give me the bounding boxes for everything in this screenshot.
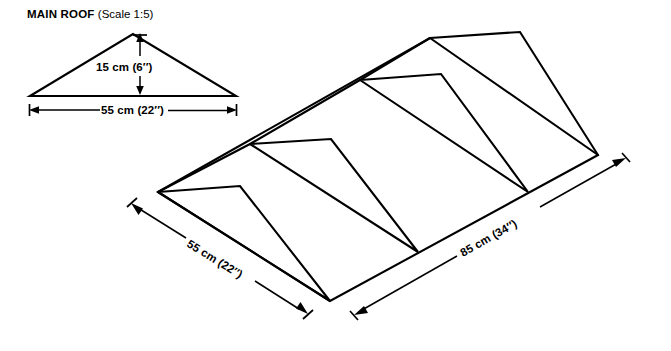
length-dim-line-lower bbox=[362, 256, 457, 310]
figure-title: MAIN ROOF (Scale 1:5) bbox=[27, 8, 154, 20]
figure-title-scale: (Scale 1:5) bbox=[98, 8, 154, 20]
height-dim-arrow-down bbox=[136, 86, 144, 95]
width-dim-arrow-right bbox=[227, 106, 237, 114]
width-dimension-label: 55 cm (22′′) bbox=[101, 104, 164, 116]
length-dimension-label: 85 cm (34′′) bbox=[458, 217, 519, 258]
roof-panel-rafter-upper bbox=[360, 74, 528, 192]
length-dim-line-upper bbox=[540, 163, 618, 207]
length-dim-end-tick bbox=[622, 153, 630, 162]
roof-technical-drawing: MAIN ROOF (Scale 1:5) 15 cm (6′′) 55 cm … bbox=[0, 0, 671, 351]
length-dim-start-tick bbox=[350, 311, 358, 320]
depth-dim-arrow-start bbox=[131, 203, 143, 215]
depth-dim-arrow-end bbox=[296, 302, 308, 314]
depth-dimension: 55 cm (22′′) bbox=[127, 198, 313, 319]
depth-dimension-label: 55 cm (22′′) bbox=[185, 237, 245, 280]
depth-dim-line-lower bbox=[255, 281, 299, 309]
figure-title-bold: MAIN ROOF bbox=[27, 8, 95, 20]
height-dimension-label: 15 cm (6′′) bbox=[96, 61, 153, 73]
hip-rafter-apex-right bbox=[430, 38, 598, 155]
roof-panel-rafter-lower bbox=[158, 186, 330, 301]
width-dim-arrow-left bbox=[29, 106, 39, 114]
depth-dim-line-upper bbox=[138, 208, 186, 238]
roof-panel-rafter-middle bbox=[250, 139, 418, 252]
gable-elevation-group: 15 cm (6′′) 55 cm (22′′) bbox=[29, 33, 237, 116]
